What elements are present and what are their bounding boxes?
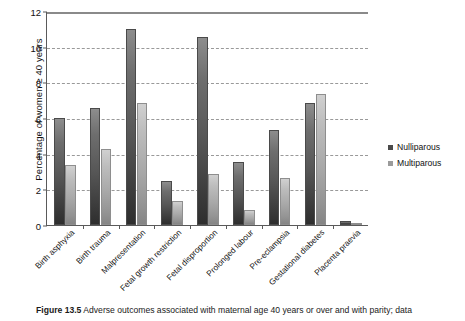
y-tick-label: 6 bbox=[36, 114, 41, 125]
bar-nulliparous bbox=[305, 103, 316, 225]
chart-legend: NulliparousMultiparous bbox=[388, 142, 464, 174]
bar-group bbox=[190, 12, 226, 225]
legend-swatch-icon bbox=[388, 145, 393, 150]
bar-multiparous bbox=[280, 178, 291, 225]
legend-item-nulliparous: Nulliparous bbox=[388, 142, 464, 152]
legend-swatch-icon bbox=[388, 161, 393, 166]
bar-chart: Percentage of women ≥ 40 years 024681012… bbox=[0, 0, 465, 300]
bar-group bbox=[226, 12, 262, 225]
bar-group bbox=[297, 12, 333, 225]
plot-area: 024681012 bbox=[46, 12, 368, 226]
x-axis-label: Birth trauma bbox=[74, 228, 112, 266]
x-axis-label: Fetal growth restriction bbox=[119, 228, 184, 293]
bar-nulliparous bbox=[161, 181, 172, 225]
y-tick-label: 8 bbox=[36, 78, 41, 89]
figure-page: Percentage of women ≥ 40 years 024681012… bbox=[0, 0, 465, 321]
bar-series-container bbox=[47, 12, 368, 225]
bar-nulliparous bbox=[340, 221, 351, 225]
legend-label: Nulliparous bbox=[397, 142, 440, 152]
bar-multiparous bbox=[208, 174, 219, 225]
bar-nulliparous bbox=[269, 130, 280, 225]
bar-nulliparous bbox=[90, 108, 101, 225]
bar-multiparous bbox=[137, 103, 148, 225]
y-tick-mark bbox=[43, 226, 47, 227]
legend-label: Multiparous bbox=[397, 158, 441, 168]
bar-multiparous bbox=[244, 210, 255, 225]
legend-item-multiparous: Multiparous bbox=[388, 158, 464, 168]
bar-group bbox=[333, 12, 369, 225]
figure-caption-label: Figure 13.5 bbox=[36, 305, 81, 315]
y-tick-label: 12 bbox=[30, 7, 41, 18]
bar-group bbox=[262, 12, 298, 225]
bar-nulliparous bbox=[54, 118, 65, 225]
bar-group bbox=[83, 12, 119, 225]
bar-multiparous bbox=[172, 201, 183, 225]
bar-multiparous bbox=[316, 94, 327, 225]
x-axis-labels: Birth asphyxiaBirth traumaMalpresentatio… bbox=[46, 228, 386, 300]
figure-caption-text: Adverse outcomes associated with materna… bbox=[83, 305, 412, 315]
x-axis-label: Birth asphyxia bbox=[34, 228, 77, 271]
y-tick-label: 0 bbox=[36, 221, 41, 232]
y-tick-label: 4 bbox=[36, 149, 41, 160]
bar-multiparous bbox=[65, 165, 76, 225]
y-axis-title: Percentage of women ≥ 40 years bbox=[33, 10, 44, 210]
bar-group bbox=[47, 12, 83, 225]
bar-nulliparous bbox=[233, 162, 244, 225]
y-tick-label: 10 bbox=[30, 42, 41, 53]
bar-nulliparous bbox=[126, 29, 137, 225]
bar-group bbox=[119, 12, 155, 225]
bar-multiparous bbox=[351, 223, 362, 225]
bar-multiparous bbox=[101, 149, 112, 225]
figure-caption: Figure 13.5 Adverse outcomes associated … bbox=[36, 305, 456, 316]
y-tick-label: 2 bbox=[36, 185, 41, 196]
bar-group bbox=[154, 12, 190, 225]
bar-nulliparous bbox=[197, 37, 208, 225]
